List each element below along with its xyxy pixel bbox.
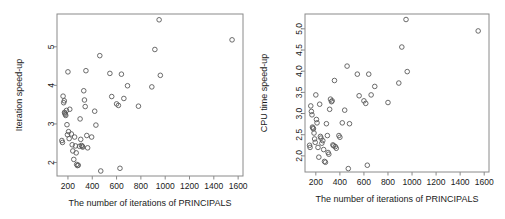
data-point [84,68,89,73]
data-point [89,135,94,140]
data-point [119,72,124,77]
x-tick-label: 600 [357,177,371,187]
data-point [153,47,158,52]
data-point [61,94,66,99]
data-point [386,100,391,105]
data-point [397,81,402,86]
y-tick-label: 3.0 [294,107,304,119]
data-point [150,85,155,90]
data-point [108,71,113,76]
data-point [316,145,321,150]
data-point [83,104,88,109]
data-point [157,17,162,22]
x-tick-label: 200 [309,177,323,187]
data-point [81,88,86,93]
y-tick-label: 4 [46,83,56,88]
panel-iteration-speedup: 20040060080010001200140016002345The numb… [0,0,253,219]
data-point [347,121,352,126]
data-point [85,146,90,151]
data-point [82,98,87,103]
x-tick-label: 1000 [403,177,422,187]
y-tick-label: 2.5 [294,129,304,141]
data-points-group [307,17,480,171]
data-point [404,17,409,22]
data-point [365,163,370,168]
y-tick-label: 4.5 [294,44,304,56]
data-point [308,104,313,109]
data-point [327,107,332,112]
data-point [317,102,322,107]
x-tick-label: 1600 [475,177,494,187]
data-point [78,137,83,142]
x-tick-label: 1200 [427,177,446,187]
data-point [118,166,123,171]
data-point [92,109,97,114]
data-point [355,72,360,77]
x-tick-label: 600 [109,181,123,191]
y-tick-label: 4.0 [294,65,304,77]
data-point [321,147,326,152]
data-point [314,93,319,98]
data-point [84,133,89,138]
scatter-plot-iteration-speedup: 20040060080010001200140016002345The numb… [0,0,253,219]
data-point [230,38,235,43]
data-point [405,69,410,74]
data-point [357,93,362,98]
x-tick-label: 800 [134,181,148,191]
data-point [65,122,70,127]
figure-container: 20040060080010001200140016002345The numb… [0,0,505,219]
data-point [400,45,405,50]
data-point [317,155,322,160]
y-axis-title: CPU time speed-up [259,54,269,133]
x-tick-label: 400 [333,177,347,187]
data-point [324,121,329,126]
data-point [158,73,163,78]
y-tick-label: 2.0 [294,150,304,162]
x-tick-label: 800 [381,177,395,187]
plot-frame [305,14,489,172]
y-tick-label: 2 [46,160,56,165]
x-tick-label: 400 [85,181,99,191]
data-point [366,72,371,77]
scatter-plot-cpu-time-speedup: 20040060080010001200140016002.02.53.03.5… [253,0,505,219]
x-tick-label: 1400 [204,181,223,191]
data-point [109,94,114,99]
data-point [136,104,141,109]
x-tick-label: 1400 [451,177,470,187]
data-point [345,64,350,69]
y-tick-label: 3 [46,121,56,126]
x-tick-label: 1600 [229,181,248,191]
x-axis-title: The number of iterations of PRINCIPALS [69,198,232,208]
data-point [72,135,77,140]
data-point [94,123,99,128]
data-point [346,166,351,171]
x-tick-label: 200 [61,181,75,191]
y-tick-label: 5 [46,44,56,49]
data-point [332,78,337,83]
data-point [372,84,377,89]
x-axis-title: The number of iterations of PRINCIPALS [316,194,479,204]
data-point [125,83,130,88]
data-point [369,93,374,98]
data-points-group [60,17,235,173]
y-axis-title: Iteration speed-up [14,59,24,132]
data-point [340,121,345,126]
data-point [71,157,76,162]
data-point [98,169,103,174]
data-point [342,108,347,113]
data-point [122,96,127,101]
y-tick-label: 3.5 [294,86,304,98]
x-tick-label: 1000 [156,181,175,191]
data-point [476,29,481,34]
data-point [78,117,83,122]
panel-cpu-time-speedup: 20040060080010001200140016002.02.53.03.5… [253,0,505,219]
data-point [97,53,102,58]
data-point [66,70,71,75]
data-point [325,133,330,138]
plot-frame [57,14,243,176]
x-tick-label: 1200 [180,181,199,191]
data-point [67,136,72,141]
y-tick-label: 5.0 [294,23,304,35]
